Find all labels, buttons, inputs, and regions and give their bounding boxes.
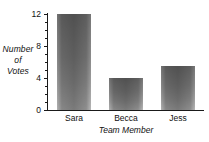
bar-jess bbox=[161, 66, 195, 110]
y-axis-tick-label: 4 bbox=[27, 74, 41, 83]
y-axis-title-line-2: of bbox=[0, 55, 36, 66]
x-axis-label-jess: Jess bbox=[152, 113, 204, 123]
x-axis-label-becca: Becca bbox=[100, 113, 152, 123]
bar-sara bbox=[57, 14, 91, 110]
bar-chart: Number of Votes 04812 SaraBeccaJess Team… bbox=[0, 0, 209, 142]
y-axis-tick-label: 0 bbox=[27, 106, 41, 115]
x-axis-line bbox=[47, 110, 204, 111]
bar-becca bbox=[109, 78, 143, 110]
plot-area bbox=[48, 14, 204, 110]
y-axis-tick-label: 8 bbox=[27, 42, 41, 51]
x-axis-title: Team Member bbox=[48, 125, 204, 135]
x-axis-label-sara: Sara bbox=[48, 113, 100, 123]
y-axis-tick-label: 12 bbox=[27, 10, 41, 19]
